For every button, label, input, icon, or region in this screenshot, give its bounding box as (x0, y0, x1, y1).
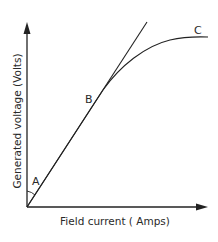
y-axis-arrowhead-icon (24, 22, 31, 34)
x-axis-arrowhead-icon (196, 204, 208, 211)
y-axis-label: Generated voltage (Volts) (11, 53, 23, 188)
point-label-a: A (32, 176, 40, 187)
point-label-c: C (194, 25, 202, 36)
angle-a-arc-icon (27, 191, 35, 195)
point-label-b: B (85, 94, 93, 105)
magnetization-diagram: A B C Generated voltage (Volts) Field cu… (0, 0, 218, 242)
x-axis-label: Field current ( Amps) (60, 215, 170, 227)
diagram-canvas (0, 0, 218, 242)
magnetization-curve (27, 37, 208, 207)
